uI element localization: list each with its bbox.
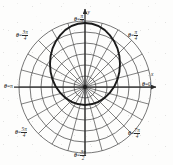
- origin-pole: [83, 85, 87, 89]
- angle-label-theta-pi-2: θ=π2: [74, 14, 84, 26]
- angle-label-theta-pi-4: θ=π4: [128, 30, 138, 42]
- angle-label-theta-5pi-4: θ=5π4: [15, 127, 27, 139]
- angle-label-theta-7pi-4: θ=7π4: [128, 128, 140, 140]
- angle-label-theta-pi: θ=π: [4, 84, 13, 90]
- polar-plot-figure: y x θ=0 θ=π4 θ=π2 θ=3π4 θ=π θ=5π4 θ=3π2 …: [0, 0, 173, 165]
- angle-label-theta-0: θ=0: [142, 82, 151, 88]
- x-axis-label: x: [151, 71, 153, 77]
- y-axis-label: y: [88, 9, 90, 15]
- angle-label-theta-3pi-4: θ=3π4: [16, 30, 28, 42]
- angle-label-theta-3pi-2: θ=3π2: [74, 150, 86, 162]
